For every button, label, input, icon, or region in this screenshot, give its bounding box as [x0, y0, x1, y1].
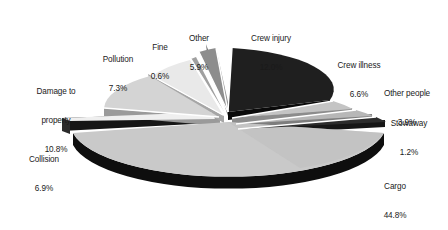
label-stowaway-name: Stowaway [378, 119, 440, 129]
label-other-percent: 5.9% [178, 63, 220, 73]
label-fine-percent: 0.6% [141, 72, 179, 82]
label-pollution-name: Pollution [88, 55, 148, 65]
label-cargo: Cargo 44.8% [372, 163, 418, 230]
label-collision-name: Collision [14, 155, 74, 165]
label-cargo-percent: 44.8% [372, 211, 418, 221]
label-damage-line1: Damage to [14, 87, 98, 97]
label-stowaway-percent: 1.2% [378, 148, 440, 158]
label-collision: Collision 6.9% [14, 136, 74, 213]
label-other-name: Other [178, 34, 220, 44]
label-pollution-percent: 7.3% [88, 84, 148, 94]
label-other: Other 5.9% [178, 15, 220, 92]
pie-chart-figure: Damage to property 10.8% Pollution 7.3% … [0, 0, 448, 230]
label-damage-line2: property [14, 116, 98, 126]
label-other-people-name: Other people [370, 89, 444, 99]
label-crew-injury: Crew injury 12.0% [238, 15, 304, 92]
label-cargo-name: Cargo [372, 182, 418, 192]
label-crew-injury-percent: 12.0% [238, 63, 304, 73]
label-crew-injury-name: Crew injury [238, 34, 304, 44]
label-fine-name: Fine [141, 43, 179, 53]
label-fine: Fine 0.6% [141, 24, 179, 101]
label-collision-percent: 6.9% [14, 184, 74, 194]
label-pollution: Pollution 7.3% [88, 36, 148, 113]
